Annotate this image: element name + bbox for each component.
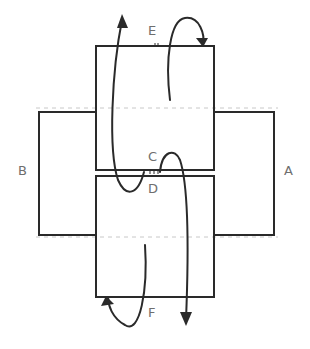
fold-arrow-e-over — [168, 18, 203, 100]
folding-diagram — [0, 0, 310, 349]
right-panel — [214, 112, 274, 235]
label-f: F — [148, 306, 155, 319]
label-b: B — [18, 164, 27, 177]
label-d: D — [148, 182, 158, 195]
panel-outlines — [39, 46, 274, 297]
label-a: A — [284, 164, 293, 177]
fold-arrow-c-down — [160, 153, 188, 320]
label-e: E — [148, 24, 156, 37]
left-panel — [39, 112, 96, 235]
label-c: C — [148, 150, 157, 163]
fold-lines — [36, 108, 278, 237]
fold-arrow-f-under — [108, 245, 146, 326]
